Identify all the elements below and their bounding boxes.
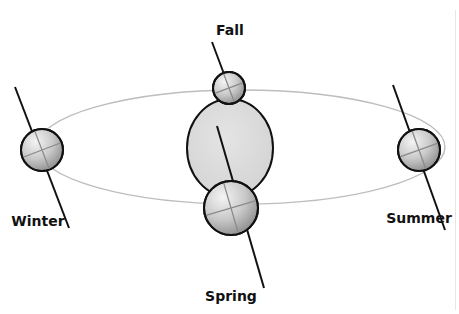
- label-winter: Winter: [11, 213, 64, 229]
- earth-summer: [393, 85, 445, 230]
- label-spring: Spring: [205, 288, 257, 304]
- earth-winter: [15, 87, 69, 228]
- label-fall: Fall: [216, 22, 244, 38]
- label-summer: Summer: [386, 210, 452, 226]
- earth-fall: [212, 42, 245, 104]
- page-edge-divider: [455, 10, 456, 310]
- seasons-orbit-diagram: Fall Winter Summer Spring: [0, 0, 459, 314]
